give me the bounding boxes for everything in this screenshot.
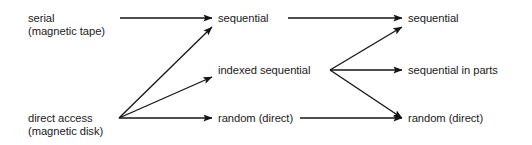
node-label-line: direct access bbox=[28, 112, 103, 125]
node-label-line: sequential in parts bbox=[408, 64, 498, 77]
node-label-mid-indexed-sequential: indexed sequential bbox=[218, 64, 310, 77]
node-label-line: sequential bbox=[408, 12, 459, 25]
node-label-line: (magnetic disk) bbox=[28, 125, 103, 138]
node-label-direct-access: direct access(magnetic disk) bbox=[28, 112, 103, 138]
node-label-line: random (direct) bbox=[408, 112, 483, 125]
diagram-canvas: serial(magnetic tape) direct access(magn… bbox=[0, 0, 532, 145]
node-label-right-random: random (direct) bbox=[408, 112, 483, 125]
edge-direct-to-indexed bbox=[119, 77, 212, 118]
node-label-line: indexed sequential bbox=[218, 64, 310, 77]
node-label-line: sequential bbox=[218, 12, 269, 25]
node-label-right-sequential-in-parts: sequential in parts bbox=[408, 64, 498, 77]
edge-indexed-to-sequential bbox=[330, 27, 402, 70]
node-label-mid-random: random (direct) bbox=[218, 112, 293, 125]
node-label-serial: serial(magnetic tape) bbox=[28, 12, 105, 38]
node-label-mid-sequential: sequential bbox=[218, 12, 269, 25]
node-label-line: serial bbox=[28, 12, 105, 25]
edge-indexed-to-random bbox=[330, 70, 402, 118]
node-label-right-sequential: sequential bbox=[408, 12, 459, 25]
node-label-line: (magnetic tape) bbox=[28, 25, 105, 38]
edge-direct-to-sequential bbox=[119, 27, 212, 118]
node-label-line: random (direct) bbox=[218, 112, 293, 125]
